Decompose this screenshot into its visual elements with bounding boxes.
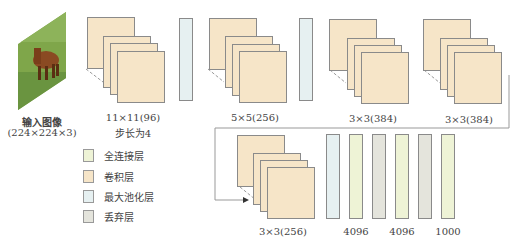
fc3-bar [441,134,455,219]
conv-swatch [83,170,94,183]
pool-swatch [83,190,94,203]
conv3-label: 3×3(384) [340,113,406,124]
conv4-label: 3×3(384) [436,114,502,125]
legend-label: 丢弃层 [104,209,134,224]
pool3-bar [326,134,340,219]
legend-item-conv: 卷积层 [83,169,134,184]
legend-item-fc: 全连接层 [83,148,144,163]
fc1-bar [349,134,363,219]
conv2-label: 5×5(256) [222,112,288,123]
dropout-swatch [83,210,94,223]
fc2-bar [395,134,409,219]
fc2-label: 4096 [382,226,422,237]
legend-item-dropout: 丢弃层 [83,209,134,224]
dropout1-bar [372,134,386,219]
horse-photo-icon [18,12,66,110]
conv1-stride: 步长为4 [100,125,166,140]
pool1-bar [179,18,193,101]
input-size: (224×224×3) [6,127,78,138]
legend-label: 卷积层 [104,169,134,184]
input-image [18,12,66,110]
conv5-label: 3×3(256) [250,226,316,237]
conv1-label: 11×11(96) [100,112,166,123]
legend-item-pool: 最大池化层 [83,189,154,204]
pool2-bar [299,18,313,101]
fc-swatch [83,149,94,162]
fc1-label: 4096 [336,226,376,237]
legend-label: 全连接层 [104,148,144,163]
fc3-label: 1000 [428,226,468,237]
legend-label: 最大池化层 [104,189,154,204]
dropout2-bar [418,134,432,219]
